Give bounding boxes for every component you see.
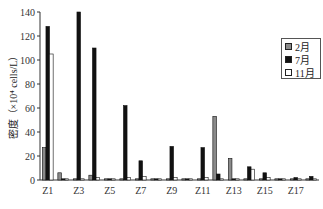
y-tick-label: 120: [20, 31, 35, 42]
bar-Z5-7月: [108, 179, 112, 180]
y-tick-label: 60: [25, 103, 35, 114]
bar-Z1-7月: [46, 26, 50, 180]
x-tick-label: Z13: [226, 185, 242, 196]
bar-Z17-7月: [294, 178, 298, 180]
bar-Z7-7月: [139, 161, 143, 180]
legend-item-nov: 11月: [282, 66, 320, 78]
x-tick-label: Z11: [195, 185, 211, 196]
legend: 2月 7月 11月: [281, 38, 321, 79]
bar-Z10-2月: [182, 179, 186, 180]
bar-Z10-7月: [185, 179, 189, 180]
y-tick-label: 0: [30, 175, 35, 186]
bar-Z13-7月: [232, 179, 236, 180]
bar-Z13-11月: [236, 179, 240, 180]
y-tick-label: 140: [20, 7, 35, 18]
bar-Z1-11月: [50, 54, 54, 180]
bar-Z8-7月: [154, 179, 158, 180]
bar-Z10-11月: [189, 179, 193, 180]
bar-Z9-7月: [170, 146, 174, 180]
bar-Z4-11月: [96, 178, 100, 180]
bar-Z6-2月: [120, 179, 124, 180]
x-tick-label: Z9: [166, 185, 177, 196]
bar-Z12-7月: [216, 174, 220, 180]
bar-Z7-2月: [135, 179, 139, 180]
bar-Z16-11月: [282, 179, 286, 180]
y-tick-label: 100: [20, 55, 35, 66]
bar-Z14-7月: [247, 167, 251, 180]
legend-item-feb: 2月: [282, 40, 320, 52]
bar-Z18-11月: [313, 179, 317, 180]
bar-Z2-11月: [65, 179, 69, 180]
bar-Z12-2月: [213, 116, 217, 180]
x-tick-label: Z3: [73, 185, 84, 196]
legend-label: 11月: [295, 65, 315, 80]
bar-Z14-11月: [251, 169, 255, 180]
y-tick-label: 20: [25, 151, 35, 162]
bar-Z3-11月: [81, 179, 85, 180]
x-tick-label: Z17: [288, 185, 304, 196]
legend-item-jul: 7月: [282, 53, 320, 65]
bar-Z15-2月: [259, 179, 263, 180]
bar-Z11-11月: [205, 178, 209, 180]
bar-Z9-2月: [166, 179, 170, 180]
legend-swatch-black-icon: [285, 56, 292, 63]
x-tick-label: Z7: [135, 185, 146, 196]
bar-Z18-2月: [306, 179, 310, 180]
bar-Z11-2月: [197, 179, 201, 180]
bar-Z6-11月: [127, 178, 131, 180]
bar-Z18-7月: [309, 176, 313, 180]
legend-swatch-white-icon: [285, 69, 292, 76]
bar-Z7-11月: [143, 176, 147, 180]
bar-Z8-2月: [151, 179, 155, 180]
bar-Z1-2月: [42, 148, 46, 180]
bar-Z4-7月: [92, 48, 96, 180]
bar-Z5-2月: [104, 179, 108, 180]
bar-Z16-7月: [278, 179, 282, 180]
bar-Z3-7月: [77, 12, 81, 180]
legend-swatch-gray-icon: [285, 43, 292, 50]
bar-Z15-11月: [267, 178, 271, 180]
bar-Z5-11月: [112, 179, 116, 180]
bar-Z13-2月: [228, 158, 232, 180]
bar-Z3-2月: [73, 179, 77, 180]
bar-Z8-11月: [158, 179, 162, 180]
bar-Z16-2月: [275, 179, 279, 180]
bar-chart: 020406080100120140Z1Z3Z5Z7Z9Z11Z13Z15Z17: [0, 0, 323, 209]
bar-Z9-11月: [174, 178, 178, 180]
bar-Z4-2月: [89, 175, 93, 180]
bar-Z17-11月: [298, 179, 302, 180]
y-axis-label: 密度（×10⁴ cells/L）: [5, 45, 19, 145]
bar-Z12-11月: [220, 179, 224, 180]
x-tick-label: Z1: [42, 185, 53, 196]
y-tick-label: 80: [25, 79, 35, 90]
y-tick-label: 40: [25, 127, 35, 138]
bar-Z14-2月: [244, 179, 248, 180]
bar-Z6-7月: [123, 106, 127, 180]
bar-Z11-7月: [201, 148, 205, 180]
bar-Z17-2月: [290, 179, 294, 180]
bar-Z15-7月: [263, 173, 267, 180]
bar-Z2-2月: [58, 173, 62, 180]
x-tick-label: Z15: [257, 185, 273, 196]
x-tick-label: Z5: [104, 185, 115, 196]
bar-Z2-7月: [61, 179, 65, 180]
